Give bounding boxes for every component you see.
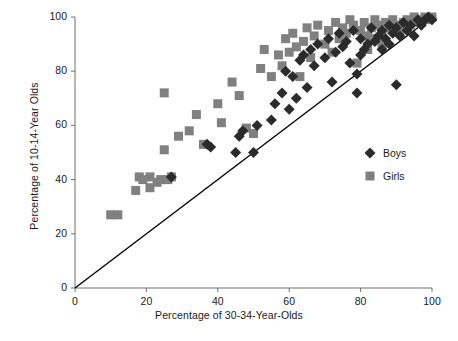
x-tick-label: 20 [126, 295, 166, 307]
data-point-boys [284, 104, 295, 115]
data-point-girls [217, 118, 226, 127]
x-axis-title: Percentage of 30-34-Year-Olds [0, 309, 458, 321]
data-point-girls [299, 37, 308, 46]
data-point-girls [113, 210, 122, 219]
data-point-girls [303, 23, 312, 32]
x-tick-label: 100 [412, 295, 452, 307]
legend-label-boys: Boys [383, 147, 406, 159]
data-point-girls [228, 78, 237, 87]
y-tick-label: 100 [33, 10, 67, 22]
data-point-girls [160, 88, 169, 97]
data-point-girls [256, 64, 265, 73]
x-tick-label: 60 [269, 295, 309, 307]
data-point-girls [185, 126, 194, 135]
data-point-girls [213, 99, 222, 108]
data-point-girls [313, 21, 322, 30]
data-point-boys [266, 114, 277, 125]
data-point-girls [267, 72, 276, 81]
y-tick-label: 0 [33, 281, 67, 293]
y-tick-label: 20 [33, 227, 67, 239]
data-point-girls [288, 29, 297, 38]
data-point-boys [327, 77, 338, 88]
data-point-girls [260, 45, 269, 54]
legend-marker-girls [366, 172, 375, 181]
legend-label-girls: Girls [383, 170, 405, 182]
x-tick-label: 40 [198, 295, 238, 307]
x-tick-label: 0 [55, 295, 95, 307]
data-point-girls [160, 145, 169, 154]
data-point-girls [274, 50, 283, 59]
data-point-girls [235, 91, 244, 100]
data-point-boys [291, 93, 302, 104]
data-point-boys [277, 87, 288, 98]
y-tick-label: 40 [33, 173, 67, 185]
data-point-boys [230, 147, 241, 158]
data-point-boys [352, 87, 363, 98]
data-point-boys [248, 147, 259, 158]
data-point-boys [269, 98, 280, 109]
data-point-boys [302, 82, 313, 93]
data-point-boys [352, 68, 363, 79]
scatter-chart-figure: Percentage of 10-14-Year Olds Percentage… [0, 0, 458, 341]
x-tick-label: 80 [341, 295, 381, 307]
data-point-boys [391, 79, 402, 90]
data-point-girls [192, 110, 201, 119]
y-tick-label: 80 [33, 64, 67, 76]
legend-markers [365, 148, 376, 181]
y-tick-label: 60 [33, 118, 67, 130]
data-point-girls [131, 186, 140, 195]
legend-marker-boys [365, 148, 376, 159]
data-point-girls [174, 132, 183, 141]
